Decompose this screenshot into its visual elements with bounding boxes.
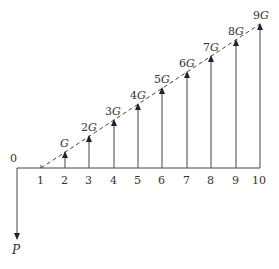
- svg-text:G: G: [60, 137, 69, 150]
- gradient-dashed-line: [41, 24, 260, 168]
- svg-text:2G: 2G: [81, 121, 97, 134]
- present-value-label: P: [11, 243, 21, 257]
- svg-text:8: 8: [207, 174, 214, 187]
- origin-label: 0: [10, 152, 17, 165]
- cash-flow-diagram: 0 1 2 3 4 5 6 7 8 9 10: [0, 0, 279, 269]
- arrow-up-icon: [233, 39, 239, 168]
- arrow-up-icon: [86, 135, 92, 168]
- arrow-up-icon: [208, 55, 214, 168]
- arrow-up-icon: [111, 119, 117, 168]
- svg-text:6G: 6G: [179, 57, 195, 70]
- svg-text:3: 3: [85, 174, 92, 187]
- svg-text:9G: 9G: [253, 9, 269, 22]
- svg-text:10: 10: [252, 174, 266, 187]
- gradient-labels: G 2G 3G 4G 5G 6G 7G 8G 9G: [60, 9, 269, 150]
- svg-text:6: 6: [158, 174, 165, 187]
- svg-text:1: 1: [37, 174, 44, 187]
- svg-text:9: 9: [232, 174, 239, 187]
- arrow-up-icon: [135, 103, 141, 168]
- svg-text:4: 4: [110, 174, 117, 187]
- period-labels: 1 2 3 4 5 6 7 8 9 10: [37, 174, 266, 187]
- svg-text:7: 7: [183, 174, 190, 187]
- svg-text:2: 2: [61, 174, 68, 187]
- svg-text:8G: 8G: [228, 25, 244, 38]
- arrow-down-icon: [14, 168, 20, 240]
- gradient-arrows: [62, 23, 263, 168]
- svg-text:4G: 4G: [130, 89, 146, 102]
- svg-text:3G: 3G: [105, 105, 121, 118]
- arrow-up-icon: [257, 23, 263, 168]
- arrow-up-icon: [184, 71, 190, 168]
- svg-text:7G: 7G: [203, 41, 219, 54]
- svg-text:5G: 5G: [154, 73, 170, 86]
- svg-text:5: 5: [134, 174, 141, 187]
- arrow-up-icon: [159, 87, 165, 168]
- arrow-up-icon: [62, 151, 68, 168]
